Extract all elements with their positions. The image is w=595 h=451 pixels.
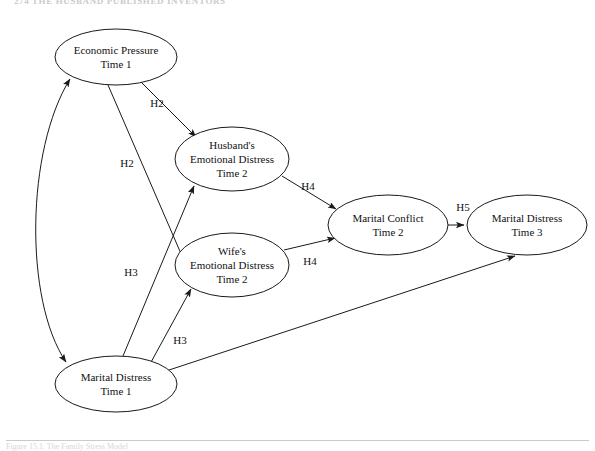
node-label-line: Time 2	[216, 167, 247, 179]
edge-wife-to-conflict	[284, 238, 335, 250]
edge-label-h3-wife: H3	[173, 334, 187, 346]
node-label-line: Marital Distress	[492, 212, 563, 224]
node-label-line: Marital Conflict	[352, 212, 423, 224]
edge-label-h4-wife: H4	[303, 255, 317, 267]
edge-label-h5: H5	[456, 201, 470, 213]
node-label-line: Emotional Distress	[190, 153, 274, 165]
node-wife-distress-t2[interactable]: Wife's Emotional Distress Time 2	[175, 233, 289, 297]
node-husband-distress-t2[interactable]: Husband's Emotional Distress Time 2	[175, 127, 289, 191]
node-label-line: Economic Pressure	[74, 44, 159, 56]
edge-label-h4-husband: H4	[301, 180, 315, 192]
edge-label-h2-husband: H2	[150, 97, 163, 109]
node-economic-pressure-t1[interactable]: Economic Pressure Time 1	[55, 29, 177, 85]
node-marital-distress-t3[interactable]: Marital Distress Time 3	[467, 195, 587, 255]
node-label-line: Wife's	[218, 245, 246, 257]
edge-label-h3-husband: H3	[124, 266, 138, 278]
edge-label-h2-wife: H2	[120, 157, 133, 169]
edge-ep-to-husband	[140, 81, 196, 137]
edge-md1-to-wife	[150, 289, 191, 364]
path-diagram: Economic Pressure Time 1 Husband's Emoti…	[0, 0, 595, 451]
node-label-line: Time 2	[216, 273, 247, 285]
figure-caption: Figure 15.1. The Family Stress Model	[6, 442, 128, 451]
figure-page: 274 THE HUSBAND PUBLISHED INVENTORS	[0, 0, 595, 451]
node-label-line: Time 1	[100, 385, 131, 397]
node-marital-distress-t1[interactable]: Marital Distress Time 1	[55, 356, 177, 412]
edge-ep-md1-correlation	[36, 79, 70, 362]
caption-rule	[6, 440, 589, 441]
node-label-line: Time 2	[372, 226, 403, 238]
node-label-line: Husband's	[209, 139, 254, 151]
node-label-line: Marital Distress	[81, 371, 152, 383]
node-label-line: Time 3	[511, 226, 543, 238]
node-marital-conflict-t2[interactable]: Marital Conflict Time 2	[328, 195, 448, 255]
node-label-line: Emotional Distress	[190, 259, 274, 271]
node-label-line: Time 1	[100, 58, 131, 70]
